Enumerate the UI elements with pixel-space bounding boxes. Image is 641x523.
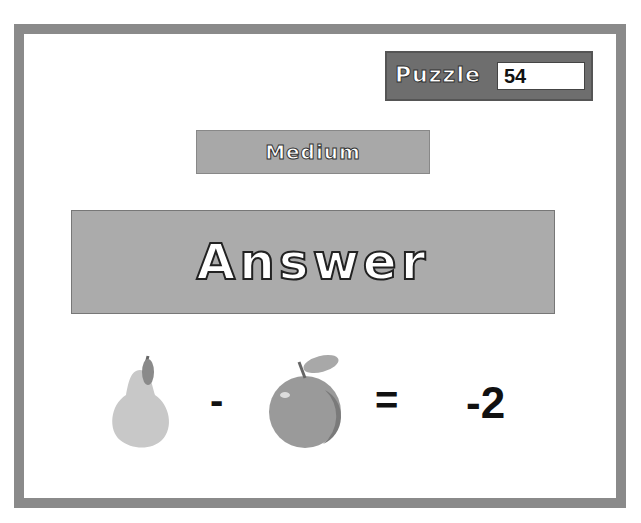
equals-operator: = <box>375 378 398 423</box>
answer-button[interactable]: Answer <box>71 210 555 314</box>
difficulty-button[interactable]: Medium <box>196 130 430 174</box>
pear-icon <box>100 350 180 450</box>
answer-label: Answer <box>197 233 430 291</box>
puzzle-selector: Puzzle <box>385 51 593 101</box>
apple-icon <box>265 350 350 450</box>
result-value: -2 <box>466 378 505 428</box>
minus-operator: - <box>210 378 223 423</box>
puzzle-label: Puzzle <box>395 62 481 87</box>
difficulty-label: Medium <box>265 140 361 164</box>
puzzle-number-input[interactable] <box>497 62 585 90</box>
